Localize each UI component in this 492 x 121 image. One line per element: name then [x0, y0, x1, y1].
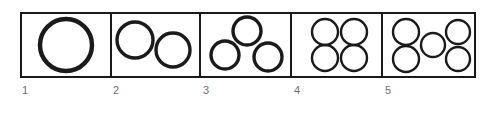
figure-container: 12345 — [0, 0, 492, 121]
circle-groups-diagram — [0, 0, 492, 121]
cell-label-2: 2 — [113, 85, 119, 96]
cell-label-3: 3 — [203, 85, 209, 96]
cell-label-4: 4 — [294, 85, 300, 96]
cell-label-5: 5 — [385, 85, 391, 96]
cell-label-1: 1 — [22, 85, 28, 96]
